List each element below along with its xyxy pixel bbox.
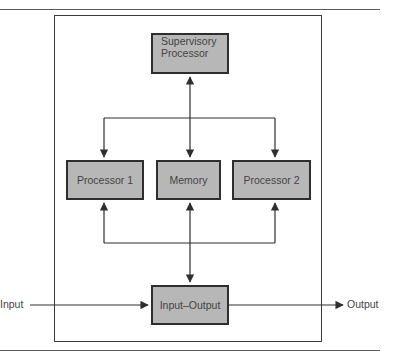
processor1-box: Processor 1 — [66, 160, 144, 200]
supervisory-processor-box: Supervisory Processor — [151, 33, 229, 74]
io-label: Input–Output — [160, 299, 221, 311]
supervisory-label-line2: Processor — [161, 47, 208, 59]
output-label: Output — [347, 298, 379, 310]
memory-label: Memory — [170, 174, 208, 186]
processor2-box: Processor 2 — [232, 160, 311, 200]
input-output-box: Input–Output — [151, 285, 229, 325]
memory-box: Memory — [156, 160, 221, 200]
processor1-label: Processor 1 — [77, 174, 133, 186]
supervisory-label-line1: Supervisory — [161, 35, 216, 47]
processor2-label: Processor 2 — [243, 174, 299, 186]
input-label: Input — [0, 298, 23, 310]
